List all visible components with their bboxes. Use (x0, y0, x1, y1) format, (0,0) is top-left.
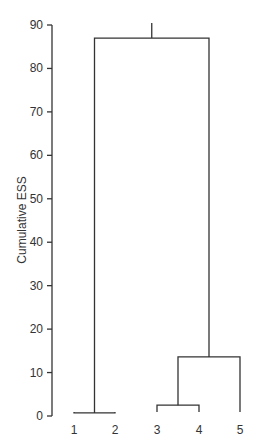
leaf-label: 4 (196, 423, 203, 437)
leaf-label: 2 (112, 423, 119, 437)
y-tick-label: 60 (30, 148, 44, 162)
leaf-labels: 12345 (71, 423, 244, 437)
y-axis (47, 25, 52, 416)
y-tick-labels: 0102030405060708090 (30, 18, 44, 423)
y-tick-label: 10 (30, 366, 44, 380)
y-axis-label-text: Cumulative ESS (15, 176, 29, 263)
y-tick-label: 90 (30, 18, 44, 32)
dendrogram-links (74, 23, 240, 413)
y-tick-label: 70 (30, 105, 44, 119)
leaf-label: 5 (237, 423, 244, 437)
merge-link (178, 357, 240, 412)
y-tick-label: 80 (30, 61, 44, 75)
y-tick-label: 0 (36, 409, 43, 423)
y-tick-label: 20 (30, 322, 44, 336)
leaf-label: 3 (154, 423, 161, 437)
dendrogram-chart: 0102030405060708090 12345 (0, 0, 259, 446)
y-tick-label: 40 (30, 235, 44, 249)
leaf-label: 1 (71, 423, 78, 437)
y-tick-label: 50 (30, 192, 44, 206)
y-tick-label: 30 (30, 279, 44, 293)
merge-link (157, 405, 199, 412)
